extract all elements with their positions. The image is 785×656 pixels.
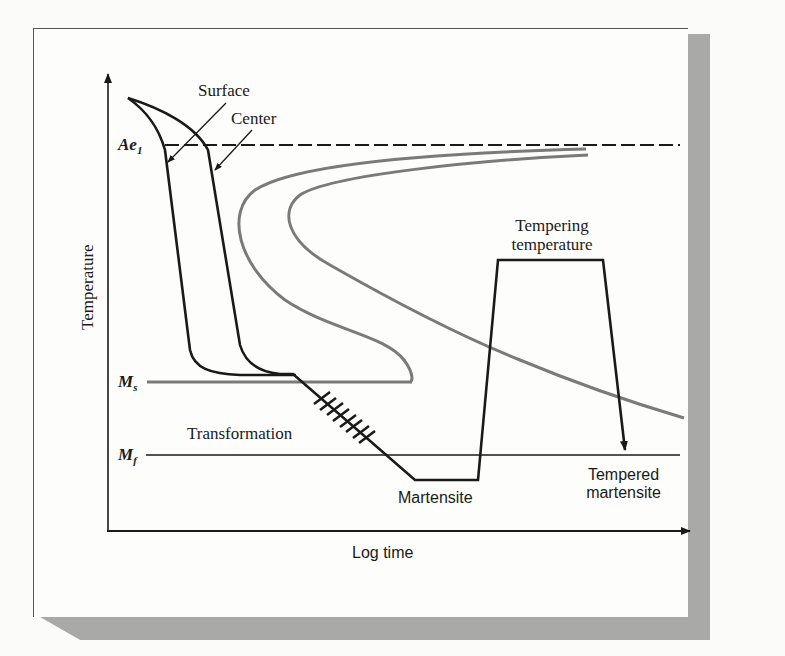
surface-label: Surface — [198, 82, 250, 99]
ae1-label-sub: 1 — [137, 144, 143, 156]
tempered-label-line2: martensite — [566, 485, 681, 501]
ms-label: Ms — [118, 373, 137, 393]
y-axis-label: Temperature — [78, 244, 98, 330]
ms-label-sub: s — [133, 381, 137, 393]
ms-label-main: M — [118, 372, 133, 391]
mf-label: Mf — [118, 446, 137, 466]
mf-label-main: M — [118, 445, 133, 464]
center-label: Center — [231, 110, 276, 127]
surface-cooling-curve — [128, 98, 296, 375]
tempered-label-line1: Tempered — [566, 467, 681, 483]
tempering-label-line1: Tempering — [496, 217, 608, 234]
surface-leader-arrow — [168, 103, 226, 162]
ae1-label: Ae1 — [118, 136, 142, 156]
martensite-label: Martensite — [398, 490, 473, 506]
tempering-temperature-label: Tempering temperature — [496, 217, 608, 253]
center-cooling-curve — [128, 98, 625, 480]
tempering-label-line2: temperature — [496, 236, 608, 253]
ae1-label-main: Ae — [118, 135, 137, 154]
tempered-martensite-label: Tempered martensite — [566, 467, 681, 501]
transformation-start-curve — [239, 149, 586, 382]
center-leader-arrow — [215, 130, 252, 170]
mf-label-sub: f — [133, 454, 137, 466]
transformation-label: Transformation — [187, 425, 292, 442]
x-axis-label: Log time — [352, 545, 413, 561]
